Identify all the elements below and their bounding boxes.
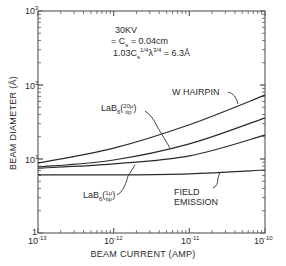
- label-w-hairpin: W HAIRPIN: [172, 87, 220, 97]
- y-tick-10: 101: [25, 155, 38, 165]
- label-field-emission: FIELDEMISSION: [174, 187, 218, 207]
- curve-lab6-1-tip-: [38, 135, 265, 168]
- x-tick-1e-10: 10-10: [254, 236, 273, 246]
- y-axis-label: BEAM DIAMETER (Å): [8, 68, 18, 178]
- x-tick-1e-13: 10-13: [28, 236, 47, 246]
- curve-lab6-20-tip-: [38, 118, 265, 167]
- x-axis-label: BEAM CURRENT (AMP): [0, 249, 286, 259]
- label-lab6-20u: LaB6(20μtip): [101, 103, 137, 115]
- y-tick-100: 102: [25, 81, 38, 91]
- x-tick-1e-11: 10-11: [181, 236, 199, 246]
- annotation-cs: = Cs = 0.04cm: [111, 36, 168, 46]
- annotation-voltage: 30KV: [115, 25, 137, 35]
- annotation-formula: 1.03Cs1/4λ3/4 = 6.3Å: [113, 48, 190, 58]
- curve-field-emission: [38, 170, 265, 175]
- y-tick-1000: 103: [25, 6, 38, 16]
- data-curves: [38, 95, 265, 175]
- x-tick-1e-12: 10-12: [104, 236, 123, 246]
- label-lab6-1u: LaB6(1μtip): [83, 190, 115, 202]
